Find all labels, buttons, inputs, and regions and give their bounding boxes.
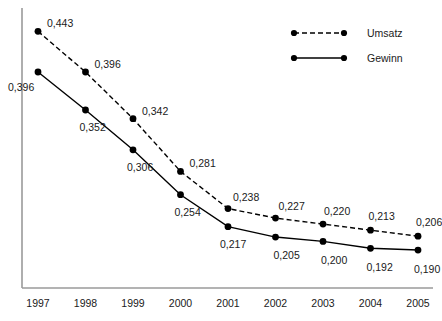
data-point-marker: [177, 168, 184, 175]
data-label: 0,396: [95, 59, 121, 70]
data-label: 0,206: [416, 217, 442, 228]
x-axis-tick-2002: 2002: [256, 298, 296, 309]
x-axis-tick-2001: 2001: [208, 298, 248, 309]
data-label: 0,213: [369, 211, 395, 222]
data-point-marker: [225, 205, 232, 212]
data-label: 0,281: [190, 158, 216, 169]
legend-label-umsatz: Umsatz: [367, 28, 403, 39]
data-label: 0,205: [274, 250, 300, 261]
x-axis-tick-1997: 1997: [18, 298, 58, 309]
data-point-marker: [35, 69, 42, 76]
legend-swatch-gewinn: [291, 55, 347, 61]
data-point-marker: [320, 221, 327, 228]
data-point-marker: [35, 28, 42, 35]
data-label: 0,342: [142, 106, 168, 117]
data-point-marker: [367, 227, 374, 234]
legend-swatch-umsatz: [291, 30, 347, 36]
data-point-marker: [320, 238, 327, 245]
data-point-marker: [177, 191, 184, 198]
data-point-marker: [82, 107, 89, 114]
x-axis-tick-2005: 2005: [398, 298, 438, 309]
legend-marker-icon: [341, 55, 347, 61]
x-axis-tick-1998: 1998: [66, 298, 106, 309]
data-label: 0,227: [279, 201, 305, 212]
data-label: 0,254: [175, 207, 201, 218]
data-point-marker: [225, 223, 232, 230]
data-label: 0,238: [233, 192, 259, 203]
data-point-marker: [415, 233, 422, 240]
data-label: 0,306: [127, 162, 153, 173]
legend-marker-icon: [291, 30, 297, 36]
series-layer: [35, 28, 422, 253]
legend-marker-icon: [341, 30, 347, 36]
data-label: 0,220: [324, 206, 350, 217]
data-label: 0,217: [220, 239, 246, 250]
data-label: 0,190: [414, 264, 440, 275]
data-label: 0,352: [80, 122, 106, 133]
data-label: 0,396: [8, 82, 34, 93]
data-point-marker: [130, 146, 137, 153]
data-label: 0,200: [321, 255, 347, 266]
x-axis-tick-2000: 2000: [161, 298, 201, 309]
data-point-marker: [272, 215, 279, 222]
x-axis-tick-2003: 2003: [303, 298, 343, 309]
data-point-marker: [367, 245, 374, 252]
data-label: 0,443: [47, 18, 73, 29]
x-axis-tick-2004: 2004: [351, 298, 391, 309]
legend-label-gewinn: Gewinn: [367, 53, 403, 64]
legend-marker-icon: [291, 55, 297, 61]
data-point-marker: [415, 247, 422, 254]
data-label: 0,192: [367, 262, 393, 273]
data-point-marker: [272, 234, 279, 241]
data-point-marker: [130, 115, 137, 122]
data-point-marker: [82, 69, 89, 76]
x-axis-tick-1999: 1999: [113, 298, 153, 309]
